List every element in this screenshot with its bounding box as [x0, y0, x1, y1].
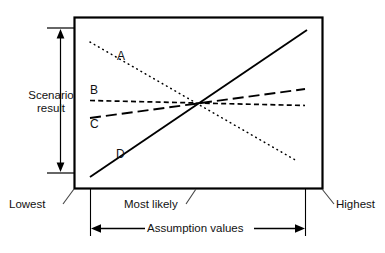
x-axis-arrow-left	[91, 224, 101, 233]
x-axis-label: Assumption values	[147, 222, 244, 235]
y-axis-label: Scenario result	[12, 89, 90, 114]
y-axis-arrow-up	[57, 29, 65, 39]
x-tick-label-lowest: Lowest	[9, 198, 45, 211]
series-label-a: A	[117, 50, 125, 63]
series-label-c: C	[90, 118, 99, 131]
x-axis-arrow-right	[295, 224, 305, 233]
series-label-d: D	[116, 148, 125, 161]
y-axis-label-line1: Scenario	[12, 89, 90, 102]
leader-line-highest	[322, 189, 334, 204]
chart-canvas	[0, 0, 385, 253]
series-label-b: B	[90, 84, 98, 97]
x-tick-label-most-likely: Most likely	[124, 198, 178, 211]
x-tick-label-highest: Highest	[336, 198, 375, 211]
leader-line-most-likely	[186, 189, 196, 204]
leader-line-lowest	[63, 189, 74, 204]
sensitivity-chart-figure: Scenario result A B C D Lowest Most like…	[0, 0, 385, 253]
y-axis-arrow-down	[57, 163, 65, 173]
y-axis-label-line2: result	[12, 102, 90, 115]
